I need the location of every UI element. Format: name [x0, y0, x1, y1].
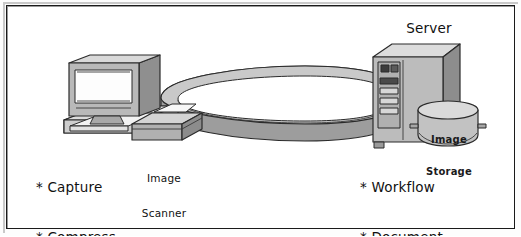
- list-item: * Capture: [36, 179, 116, 196]
- list-item: * Document: [360, 229, 473, 237]
- list-item: * Workflow: [360, 179, 473, 196]
- server-label: Server: [396, 20, 462, 36]
- server-capability-list: * Workflow * Document Management * Image…: [360, 146, 473, 236]
- list-item: * Compress: [36, 229, 116, 237]
- image-storage-label-line1: Image: [420, 135, 478, 146]
- image-scanner-label: Image Scanner: [133, 150, 195, 236]
- image-scanner-label-line2: Scanner: [133, 208, 195, 220]
- diagram-canvas: .ol{stroke:#2b2b2b;stroke-width:1.2;stro…: [0, 0, 521, 236]
- image-scanner-label-line1: Image: [133, 173, 195, 185]
- workstation-capability-list: * Capture * Compress * Display * Index: [36, 146, 116, 236]
